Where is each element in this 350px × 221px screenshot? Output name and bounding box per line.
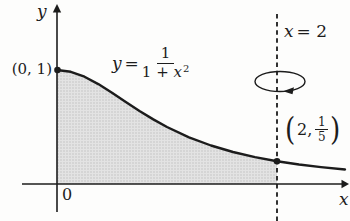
rotation-axis-var: x bbox=[284, 23, 294, 40]
curve-equation-label: y = 1 1 + x2 bbox=[112, 46, 189, 80]
point-dot-0-1 bbox=[54, 67, 61, 74]
point-y-fraction: 1 5 bbox=[315, 116, 328, 144]
curve-eq-fraction: 1 1 + x2 bbox=[142, 46, 190, 80]
curve-eq-sign: = bbox=[125, 55, 139, 72]
point-x-value: 2, bbox=[297, 122, 312, 138]
close-paren: ) bbox=[330, 115, 340, 144]
point-dot-2-fifth bbox=[274, 158, 281, 165]
rotation-axis-value: = 2 bbox=[297, 23, 327, 40]
curve-eq-numerator: 1 bbox=[157, 46, 175, 64]
point-2-fifth-label: ( 2, 1 5 ) bbox=[284, 115, 341, 144]
point-0-1-label: (0, 1) bbox=[6, 62, 52, 77]
figure-page: { "figure": { "colors": { "paper": "#fdf… bbox=[0, 0, 350, 221]
x-axis-arrow bbox=[342, 180, 350, 188]
curve-eq-lhs: y bbox=[112, 55, 122, 72]
rotation-axis-label: x = 2 bbox=[284, 23, 330, 40]
y-axis-arrow bbox=[53, 4, 61, 13]
curve-eq-denominator: 1 + x2 bbox=[142, 64, 190, 81]
x-axis-label: x bbox=[339, 191, 349, 208]
origin-label: 0 bbox=[62, 187, 72, 203]
rotation-arrow-icon bbox=[255, 72, 305, 95]
y-axis-label: y bbox=[37, 3, 47, 20]
open-paren: ( bbox=[285, 115, 295, 144]
